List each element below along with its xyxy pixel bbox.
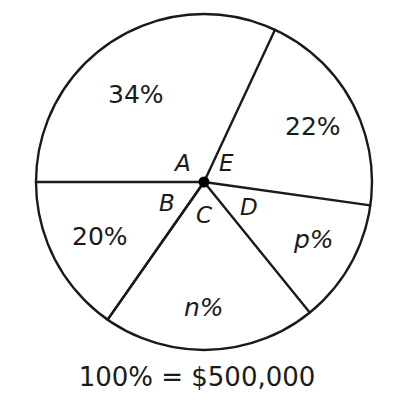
- angle-label-e: E: [219, 152, 234, 175]
- pie-chart-graphic: [0, 0, 394, 402]
- slice-label-n: n%: [184, 295, 224, 320]
- angle-label-c: C: [196, 204, 212, 227]
- slice-label-34: 34%: [108, 82, 164, 107]
- angle-label-b: B: [159, 192, 175, 215]
- pie-center-point: [199, 177, 210, 188]
- slice-label-p: p%: [294, 227, 334, 252]
- slice-label-22: 22%: [285, 114, 341, 139]
- chart-total-caption: 100% = $500,000: [0, 362, 394, 392]
- angle-label-a: A: [175, 152, 191, 175]
- pie-chart-figure: 34% 22% p% n% 20% A B C D E 100% = $500,…: [0, 0, 394, 402]
- slice-label-20: 20%: [72, 224, 128, 249]
- angle-label-d: D: [240, 196, 258, 219]
